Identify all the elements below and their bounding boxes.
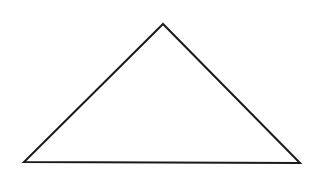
diagram-canvas [0, 0, 313, 170]
triangle-shape [24, 24, 300, 163]
